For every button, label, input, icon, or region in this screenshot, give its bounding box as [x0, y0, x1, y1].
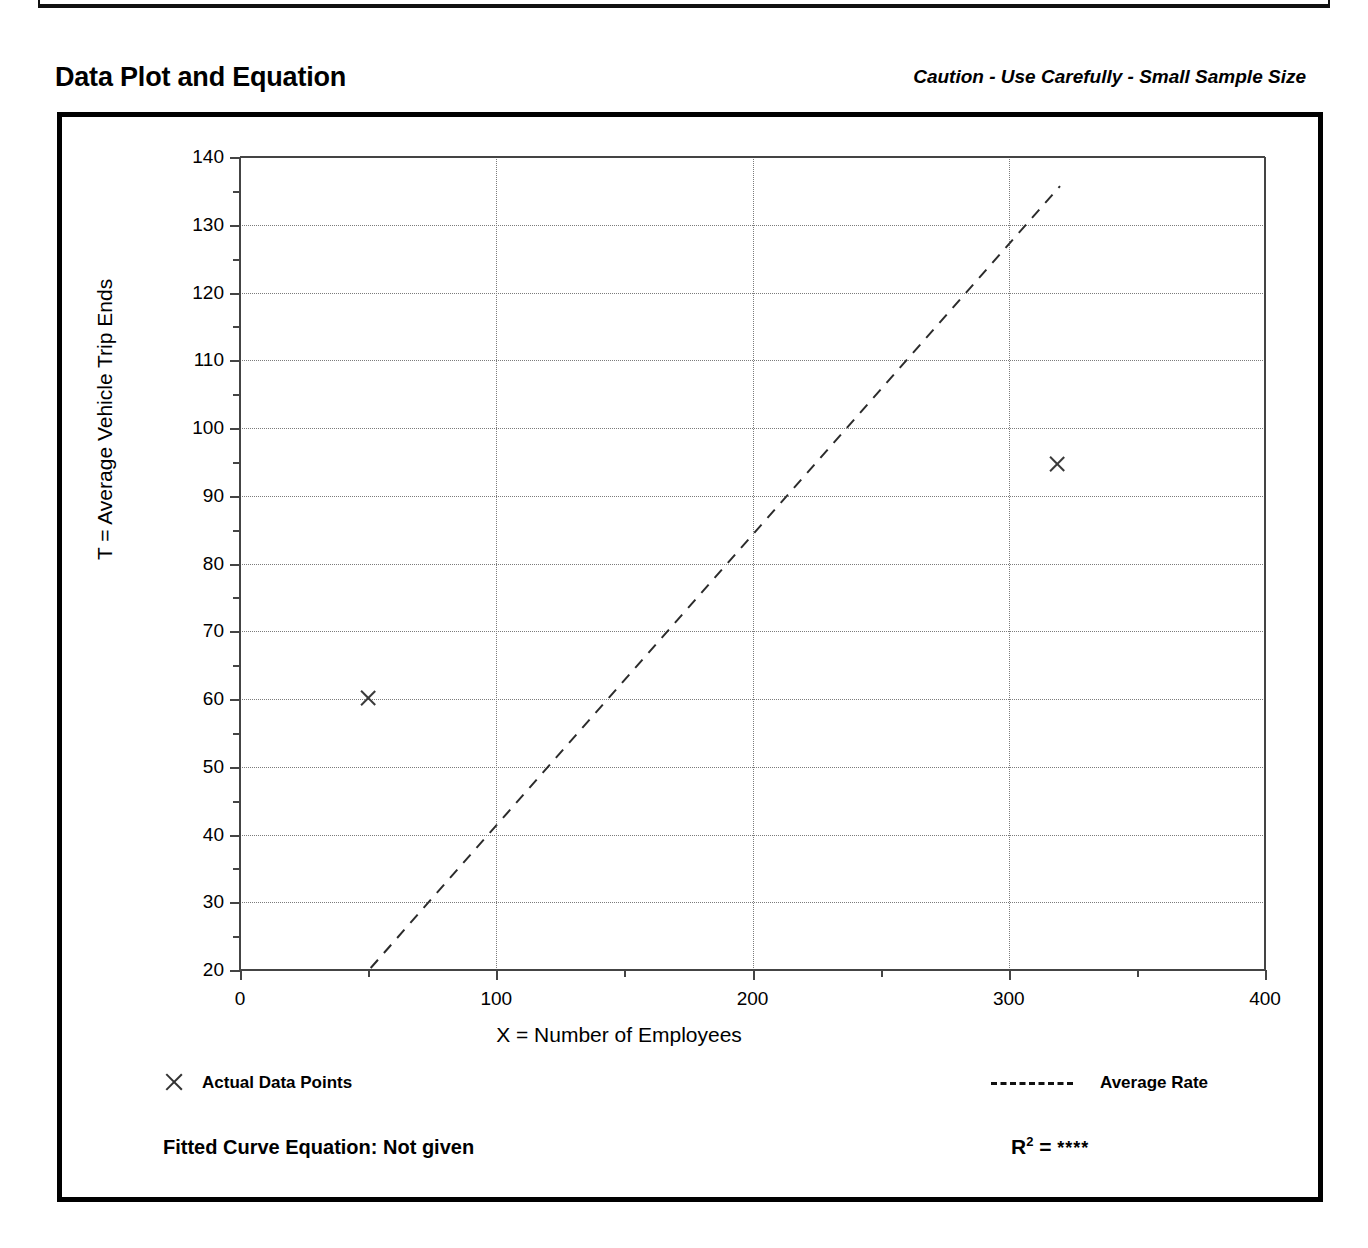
y-tick-major — [230, 631, 240, 633]
x-tick-major — [496, 970, 498, 980]
x-tick-major — [1265, 970, 1267, 980]
y-tick-minor — [233, 868, 240, 870]
y-tick-label: 30 — [203, 891, 224, 913]
y-tick-major — [230, 428, 240, 430]
y-tick-label: 140 — [192, 146, 224, 168]
y-tick-minor — [233, 326, 240, 328]
y-tick-label: 110 — [194, 349, 224, 371]
y-tick-label: 130 — [192, 214, 224, 236]
data-point-marker — [1047, 454, 1067, 474]
y-tick-label: 20 — [203, 959, 224, 981]
legend-label-average-rate: Average Rate — [1100, 1073, 1208, 1093]
r-squared-symbol: R — [1011, 1135, 1026, 1158]
average-rate-line — [371, 186, 1060, 968]
y-tick-major — [230, 767, 240, 769]
x-axis-title-text: X = Number of Employees — [496, 1023, 742, 1046]
y-tick-major — [230, 360, 240, 362]
y-tick-major — [230, 293, 240, 295]
y-tick-major — [230, 564, 240, 566]
legend-row-equation: Fitted Curve Equation: Not given R2 = **… — [0, 1132, 1368, 1166]
page-title: Data Plot and Equation — [55, 62, 346, 93]
x-tick-major — [240, 970, 242, 980]
x-axis-title: X = Number of Employees — [0, 1023, 1368, 1047]
data-point-marker — [358, 688, 378, 708]
legend-label-data-points: Actual Data Points — [202, 1073, 352, 1093]
y-axis-title: T = Average Vehicle Trip Ends — [93, 279, 117, 560]
y-tick-label: 80 — [203, 553, 224, 575]
fitted-curve-equation: Fitted Curve Equation: Not given — [163, 1136, 474, 1159]
y-tick-major — [230, 902, 240, 904]
x-tick-minor — [368, 970, 370, 977]
x-tick-major — [753, 970, 755, 980]
y-tick-minor — [233, 597, 240, 599]
y-tick-minor — [233, 394, 240, 396]
y-tick-label: 50 — [203, 756, 224, 778]
y-tick-label: 100 — [192, 417, 224, 439]
x-tick-minor — [1137, 970, 1139, 977]
y-tick-minor — [233, 530, 240, 532]
y-tick-minor — [233, 665, 240, 667]
y-tick-label: 40 — [203, 824, 224, 846]
r-squared-equals: = — [1033, 1135, 1057, 1158]
y-tick-major — [230, 970, 240, 972]
caution-note: Caution - Use Carefully - Small Sample S… — [913, 66, 1306, 88]
x-tick-label: 100 — [480, 988, 512, 1010]
x-tick-label: 0 — [235, 988, 246, 1010]
plot-area: 2030405060708090100110120130140010020030… — [240, 157, 1265, 970]
y-tick-label: 60 — [203, 688, 224, 710]
page-top-rule — [38, 0, 1330, 8]
x-tick-label: 200 — [737, 988, 769, 1010]
r-squared-value: **** — [1057, 1138, 1089, 1158]
x-tick-label: 400 — [1249, 988, 1281, 1010]
x-tick-major — [1009, 970, 1011, 980]
average-rate-trendline — [240, 157, 1265, 970]
x-tick-minor — [624, 970, 626, 977]
y-tick-major — [230, 699, 240, 701]
y-tick-major — [230, 225, 240, 227]
r-squared-block: R2 = **** — [1011, 1134, 1089, 1159]
y-tick-major — [230, 157, 240, 159]
y-tick-major — [230, 496, 240, 498]
y-tick-minor — [233, 936, 240, 938]
x-tick-label: 300 — [993, 988, 1025, 1010]
y-tick-label: 90 — [203, 485, 224, 507]
y-tick-minor — [233, 259, 240, 261]
x-tick-minor — [881, 970, 883, 977]
y-tick-label: 120 — [192, 282, 224, 304]
x-marker-icon — [163, 1071, 185, 1093]
y-tick-minor — [233, 191, 240, 193]
y-tick-major — [230, 835, 240, 837]
legend-row-markers: Actual Data Points Average Rate — [0, 1065, 1368, 1099]
dashed-line-icon — [991, 1082, 1073, 1085]
y-tick-minor — [233, 801, 240, 803]
y-tick-minor — [233, 462, 240, 464]
y-tick-label: 70 — [203, 620, 224, 642]
y-tick-minor — [233, 733, 240, 735]
